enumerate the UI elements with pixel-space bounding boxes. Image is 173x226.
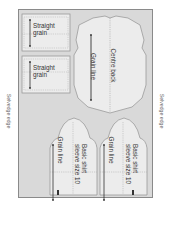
sleeve-1-label-line2: sleeve size 10: [74, 144, 81, 194]
sleeve-2-label-line2: sleeve size 10: [125, 144, 132, 194]
sleeve-1-label-line1: Basic shirt: [81, 144, 88, 194]
strip-1-label: Straight grain: [33, 22, 55, 36]
strip-2-label-line2: grain: [33, 71, 55, 78]
strip-2-label-line1: Straight: [33, 64, 55, 71]
sleeve-2-grain-label: Grain line: [108, 137, 115, 187]
sleeve-1-label: Basic shirt sleeve size 10: [74, 144, 88, 194]
sleeve-2-label: Basic shirt sleeve size 10: [125, 144, 139, 194]
cutting-layout-diagram: Selvedge edge Selvedge edge: [0, 0, 173, 226]
strip-1-label-line1: Straight: [33, 22, 55, 29]
strip-2-label: Straight grain: [33, 64, 55, 78]
sleeve-1-grain-label: Grain line: [57, 137, 64, 187]
back-grain-label: Grain line: [90, 42, 97, 92]
back-centre-label: Centre back: [110, 41, 117, 91]
sleeve-2-label-line1: Basic shirt: [132, 144, 139, 194]
strip-1-label-line2: grain: [33, 29, 55, 36]
